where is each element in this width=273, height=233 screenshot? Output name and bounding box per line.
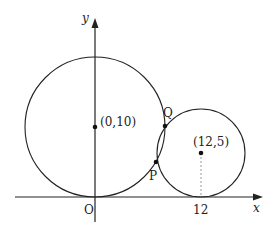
- point-q-dot: [163, 124, 168, 129]
- tick-12-label: 12: [193, 203, 208, 217]
- y-axis-label: y: [81, 11, 89, 25]
- point-p-dot: [154, 160, 159, 165]
- center-small-dot: [199, 151, 204, 156]
- x-axis-label: x: [253, 201, 260, 215]
- point-p-label: P: [149, 169, 157, 183]
- diagram: y x O 12 (0,10) (12,5) Q P: [0, 0, 273, 233]
- x-axis-arrow-icon: [253, 194, 263, 201]
- center-small-label: (12,5): [193, 135, 229, 149]
- point-q-label: Q: [163, 106, 173, 120]
- y-axis-arrow-icon: [92, 18, 99, 28]
- center-large-dot: [93, 125, 98, 130]
- origin-label: O: [84, 203, 94, 217]
- center-large-label: (0,10): [100, 115, 136, 129]
